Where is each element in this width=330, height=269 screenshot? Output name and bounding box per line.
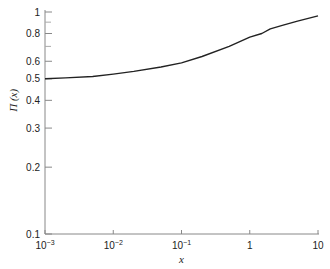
y-tick-label: 0.4 bbox=[26, 95, 40, 106]
x-tick-label: 10−1 bbox=[172, 239, 191, 251]
y-tick-label: 1 bbox=[34, 7, 40, 18]
y-tick-label: 0.5 bbox=[26, 73, 40, 84]
x-tick-label: 10 bbox=[312, 240, 324, 251]
y-tick-label: 0.3 bbox=[26, 123, 40, 134]
x-axis-title: x bbox=[178, 253, 184, 265]
chart: 10.80.60.50.40.30.20.110−310−210−1110xΠ … bbox=[0, 0, 330, 269]
x-tick-label: 10−2 bbox=[104, 239, 123, 251]
data-line bbox=[45, 16, 318, 79]
y-axis-title: Π (x) bbox=[7, 89, 20, 113]
y-tick-label: 0.6 bbox=[26, 56, 40, 67]
y-tick-label: 0.8 bbox=[26, 28, 40, 39]
y-tick-label: 0.1 bbox=[26, 229, 40, 240]
x-tick-label: 1 bbox=[247, 240, 253, 251]
x-tick-label: 10−3 bbox=[35, 239, 54, 251]
y-tick-label: 0.2 bbox=[26, 162, 40, 173]
